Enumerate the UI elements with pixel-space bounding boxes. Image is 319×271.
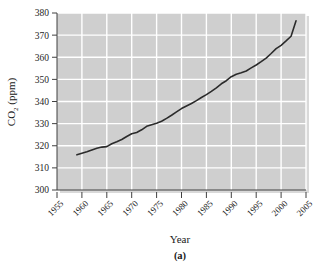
y-tick-label: 300: [35, 185, 50, 195]
y-tick-label: 310: [35, 163, 50, 173]
figure-container: 300310320330340350360370380 195519601965…: [0, 0, 319, 271]
panel-label: (a): [174, 250, 187, 262]
y-axis-tick-labels: 300310320330340350360370380: [35, 8, 50, 195]
x-tick-label: 1970: [120, 198, 140, 218]
x-tick-label: 1985: [195, 198, 215, 218]
x-tick-label: 1995: [245, 198, 265, 218]
x-tick-label: 1975: [145, 198, 165, 218]
x-tick-label: 1955: [46, 198, 66, 218]
y-tick-label: 380: [35, 8, 50, 18]
y-tick-label: 360: [35, 53, 50, 63]
x-tick-label: 1980: [170, 198, 190, 218]
y-tick-label: 350: [35, 75, 50, 85]
x-tick-label: 1960: [71, 198, 91, 218]
x-tick-label: 2000: [270, 198, 290, 218]
y-axis-title-main: CO: [5, 111, 17, 126]
x-tick-label: 1965: [95, 198, 115, 218]
x-axis-title: Year: [170, 233, 191, 245]
y-axis-title: CO2 (ppm): [5, 77, 20, 126]
y-tick-label: 370: [35, 31, 50, 41]
x-tick-label: 2005: [295, 198, 315, 218]
svg-text:CO2 (ppm): CO2 (ppm): [5, 77, 20, 126]
y-tick-label: 330: [35, 119, 50, 129]
y-axis-title-unit: (ppm): [5, 77, 18, 107]
y-tick-label: 340: [35, 97, 50, 107]
x-tick-label: 1990: [220, 198, 240, 218]
y-axis-ticks: [52, 13, 57, 190]
co2-vs-year-line-chart: 300310320330340350360370380 195519601965…: [0, 0, 319, 271]
x-axis-tick-labels: 1955196019651970197519801985199019952000…: [46, 198, 315, 218]
y-tick-label: 320: [35, 141, 50, 151]
